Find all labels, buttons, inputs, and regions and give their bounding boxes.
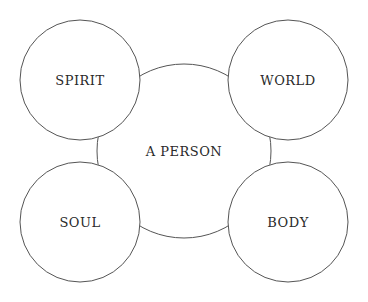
soul-label: SOUL <box>59 215 100 230</box>
body-label: BODY <box>267 215 308 230</box>
world-label: WORLD <box>260 73 315 88</box>
diagram-canvas: A PERSON SPIRIT WORLD SOUL BODY <box>0 0 368 302</box>
center-label: A PERSON <box>145 144 222 159</box>
spirit-label: SPIRIT <box>55 73 104 88</box>
